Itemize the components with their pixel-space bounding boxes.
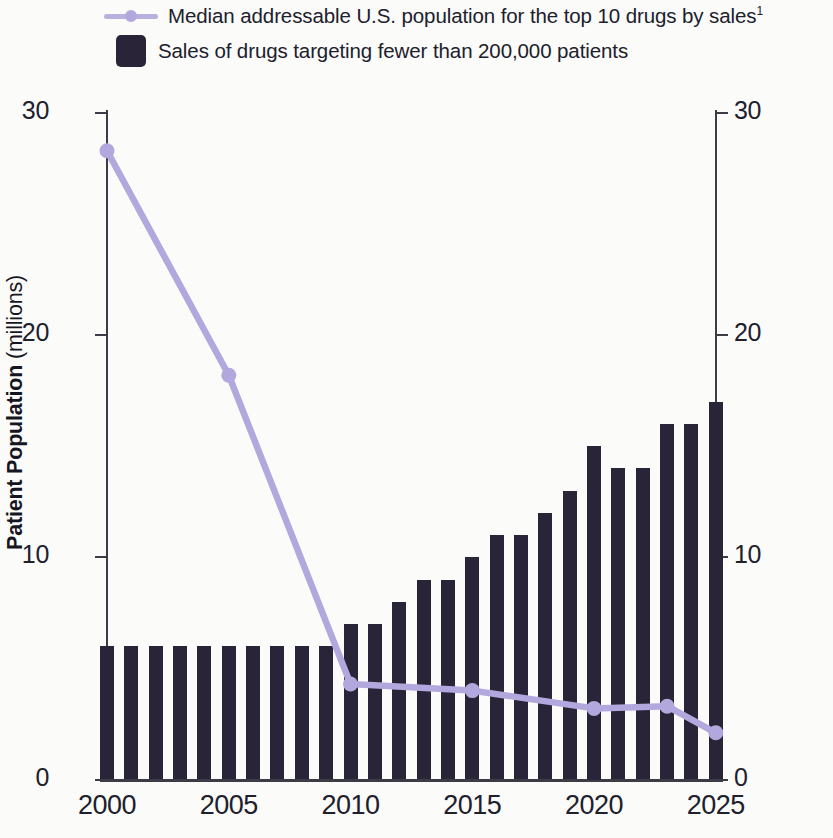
line-point-2020: 2020: 3.2 million — [587, 701, 602, 716]
chart-figure: Median addressable U.S. population for t… — [0, 0, 833, 838]
line-point-2025: 2025: 2.1 million — [708, 725, 723, 740]
line-point-2000: 2000: 28.3 million — [100, 143, 115, 158]
x-axis-label-2005: 2005 — [174, 790, 284, 821]
x-axis-label-2025: 2025 — [661, 790, 771, 821]
line-point-2005: 2005: 18.2 million — [221, 368, 236, 383]
x-axis-label-2015: 2015 — [417, 790, 527, 821]
line-series-layer: 2000: 28.3 million2005: 18.2 million2010… — [0, 0, 833, 838]
x-axis-label-2010: 2010 — [296, 790, 406, 821]
x-axis-label-2020: 2020 — [539, 790, 649, 821]
line-point-2023: 2023: 3.3 million — [660, 699, 675, 714]
x-axis-label-2000: 2000 — [52, 790, 162, 821]
line-point-2010: 2010: 4.3 million — [343, 677, 358, 692]
median-population-line — [107, 151, 716, 733]
line-point-2015: 2015: 4 million — [465, 683, 480, 698]
